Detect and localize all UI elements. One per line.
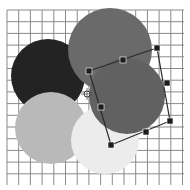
drawing-canvas[interactable] [0,0,190,190]
corner-resize-handle[interactable] [154,45,160,51]
corner-resize-handle[interactable] [108,142,114,148]
edge-resize-handle[interactable] [120,57,126,63]
edge-resize-handle[interactable] [98,104,104,110]
edge-resize-handle[interactable] [143,129,149,135]
corner-resize-handle[interactable] [167,118,173,124]
edge-resize-handle[interactable] [164,80,170,86]
corner-resize-handle[interactable] [86,68,92,74]
circle-selected[interactable] [89,58,165,134]
